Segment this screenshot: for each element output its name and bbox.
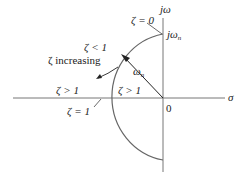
- zeta-zero-label: ζ = 0: [131, 15, 154, 26]
- omega-n-subscript: n: [141, 71, 145, 79]
- zeta-greater-one-left-label: ζ > 1: [56, 85, 79, 96]
- increasing-arrowhead-icon: [96, 74, 102, 79]
- omega-n-label: ωn: [133, 66, 144, 79]
- omega-n-text: ω: [133, 65, 141, 77]
- zeta-one-leader: [94, 99, 101, 107]
- j-omega-n-text: jω: [167, 28, 178, 40]
- zeta-less-one-label: ζ < 1: [84, 42, 107, 53]
- j-omega-n-subscript: n: [178, 34, 182, 42]
- s-plane-diagram: ζ = 0 jω jωn ζ < 1 ζ increasing ωn ζ > 1…: [0, 0, 244, 178]
- origin-label: 0: [166, 103, 172, 114]
- zeta-greater-one-inner-label: ζ > 1: [118, 85, 141, 96]
- j-omega-n-label: jωn: [167, 29, 181, 42]
- zeta-increasing-label: ζ increasing: [48, 55, 101, 66]
- semicircle-locus: [112, 34, 163, 160]
- zeta-one-label: ζ = 1: [67, 106, 90, 117]
- j-omega-axis-label: jω: [160, 4, 171, 15]
- sigma-axis-label: σ: [228, 92, 233, 103]
